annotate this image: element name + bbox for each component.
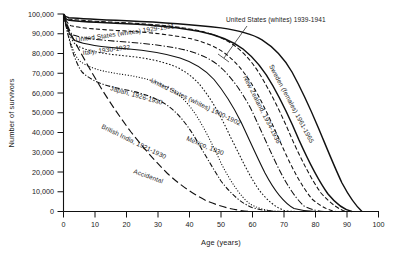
chart-svg: 100,000 90,000 80,000 70,000 60,000 50,0… bbox=[0, 0, 402, 265]
annotation-us-whites-1939-1941: United States (whites) 1939-1941 bbox=[226, 16, 326, 24]
y-tick-label: 30,000 bbox=[32, 148, 54, 157]
x-tick-label: 0 bbox=[62, 220, 66, 229]
y-tick-label: 50,000 bbox=[32, 108, 54, 117]
x-tick-label: 20 bbox=[123, 220, 131, 229]
x-tick-label: 60 bbox=[249, 220, 257, 229]
y-tick-label: 20,000 bbox=[32, 168, 54, 177]
x-tick-label: 70 bbox=[280, 220, 288, 229]
y-tick-label: 70,000 bbox=[32, 69, 54, 78]
y-axis-title: Number of survivors bbox=[7, 78, 16, 147]
x-tick-label: 80 bbox=[312, 220, 320, 229]
y-tick-label: 10,000 bbox=[32, 187, 54, 196]
x-tick-label: 30 bbox=[154, 220, 162, 229]
x-tick-label: 50 bbox=[217, 220, 225, 229]
x-tick-label: 10 bbox=[91, 220, 99, 229]
y-tick-label: 60,000 bbox=[32, 89, 54, 98]
y-tick-label: 100,000 bbox=[28, 10, 54, 19]
y-tick-label: 90,000 bbox=[32, 29, 54, 38]
y-tick-label: 40,000 bbox=[32, 128, 54, 137]
x-tick-label: 100 bbox=[373, 220, 385, 229]
survivorship-curve-figure: 100,000 90,000 80,000 70,000 60,000 50,0… bbox=[0, 0, 402, 265]
x-axis-title: Age (years) bbox=[201, 238, 241, 247]
x-tick-label: 90 bbox=[343, 220, 351, 229]
y-tick-label: 80,000 bbox=[32, 49, 54, 58]
x-tick-label: 40 bbox=[186, 220, 194, 229]
y-tick-label: 0 bbox=[50, 207, 54, 216]
